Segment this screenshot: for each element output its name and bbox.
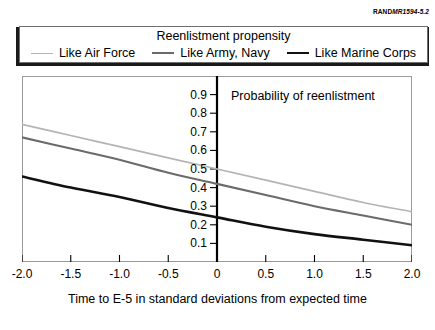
x-axis-tick-labels: -2.0-1.5-1.0-0.500.51.01.52.0 (0, 267, 435, 283)
source-tag: RANDMR1594-5.2 (373, 8, 429, 15)
x-axis-tick-label: 0 (214, 267, 221, 281)
x-axis-tick-label: 1.0 (306, 267, 323, 281)
plot-canvas (22, 76, 412, 262)
x-axis-tick-label: 1.5 (355, 267, 372, 281)
legend-entries: Like Air Force Like Army, Navy Like Mari… (20, 46, 427, 60)
legend-label-army-navy: Like Army, Navy (180, 46, 269, 60)
probability-axis-label: Probability of reenlistment (231, 89, 375, 103)
x-axis-tick-label: 2.0 (404, 267, 421, 281)
x-axis-tick-label: -2.0 (12, 267, 33, 281)
legend-item-air-force: Like Air Force (31, 46, 135, 60)
x-axis-title: Time to E-5 in standard deviations from … (0, 292, 435, 306)
legend-label-air-force: Like Air Force (59, 46, 135, 60)
x-axis-tick-label: -1.5 (60, 267, 81, 281)
source-tag-document: MR1594-5.2 (392, 8, 429, 15)
legend-swatch-army-navy (152, 52, 174, 54)
x-axis-tick-label: 0.5 (257, 267, 274, 281)
legend-swatch-air-force (31, 53, 53, 54)
legend-item-army-navy: Like Army, Navy (152, 46, 269, 60)
legend-item-marine-corps: Like Marine Corps (287, 46, 416, 60)
legend-label-marine-corps: Like Marine Corps (315, 46, 416, 60)
source-tag-brand: RAND (373, 8, 392, 15)
legend-box: Reenlistment propensity Like Air Force L… (19, 26, 428, 63)
x-axis-tick-label: -1.0 (109, 267, 130, 281)
legend-title: Reenlistment propensity (20, 29, 427, 43)
figure-container: RANDMR1594-5.2 Reenlistment propensity L… (0, 0, 435, 330)
legend-swatch-marine-corps (287, 52, 309, 54)
x-axis-tick-label: -0.5 (158, 267, 179, 281)
